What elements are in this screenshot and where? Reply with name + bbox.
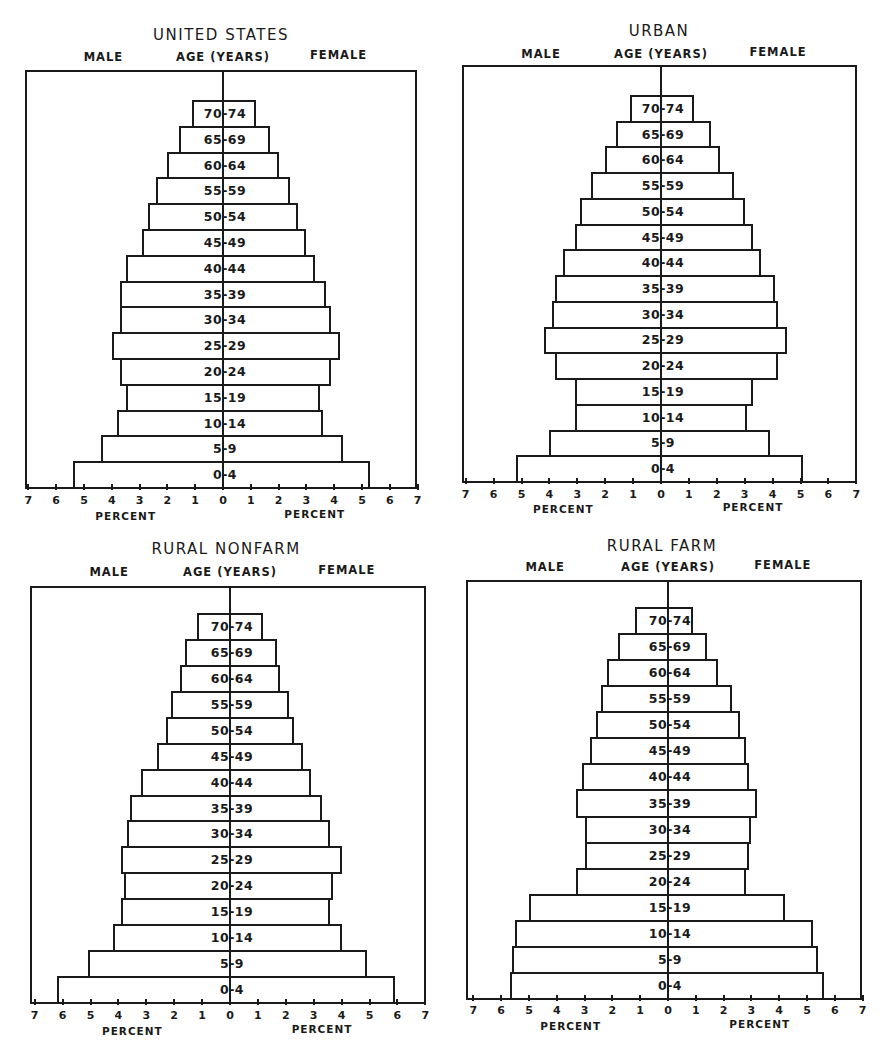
axis-tick [305, 484, 307, 490]
axis-tick [173, 999, 175, 1005]
axis-tick-label: 4 [553, 1004, 561, 1017]
axis-tick [827, 478, 829, 484]
axis-tick-label: 6 [394, 1009, 402, 1022]
axis-tick-label: 3 [136, 494, 144, 507]
age-group-label: 0-4 [651, 461, 675, 476]
axis-tick [639, 995, 641, 1001]
age-group-label: 60-64 [649, 665, 691, 680]
axis-tick-label: 3 [748, 1004, 756, 1017]
axis-tick [528, 995, 530, 1001]
age-group-label: 70-74 [649, 613, 691, 628]
axis-tick-label: 4 [546, 488, 554, 501]
axis-tick-label: 1 [636, 1004, 644, 1017]
age-group-label: 60-64 [211, 671, 253, 686]
chart-title: UNITED STATES [153, 26, 289, 44]
axis-tick [500, 995, 502, 1001]
axis-tick [465, 478, 467, 484]
axis-tick-label: 2 [170, 1009, 178, 1022]
male-label: MALE [521, 47, 561, 61]
age-group-label: 15-19 [649, 900, 691, 915]
male-label: MALE [84, 50, 124, 64]
age-group-label: 45-49 [211, 749, 253, 764]
axis-tick-label: 4 [330, 494, 338, 507]
age-axis-label: AGE (YEARS) [614, 47, 708, 61]
female-label: FEMALE [754, 558, 811, 572]
axis-tick [862, 995, 864, 1001]
axis-tick-label: 1 [254, 1009, 262, 1022]
age-group-label: 50-54 [211, 723, 253, 738]
age-group-label: 5-9 [658, 952, 682, 967]
age-group-label: 65-69 [642, 127, 684, 142]
age-group-label: 35-39 [642, 281, 684, 296]
age-group-label: 10-14 [204, 416, 246, 431]
axis-tick-label: 5 [518, 488, 526, 501]
age-group-label: 25-29 [642, 332, 684, 347]
axis-tick-label: 0 [657, 488, 665, 501]
age-group-label: 35-39 [204, 287, 246, 302]
axis-tick-label: 6 [52, 494, 60, 507]
percent-label-left: PERCENT [102, 1025, 163, 1037]
axis-tick-label: 7 [31, 1009, 39, 1022]
axis-tick [341, 999, 343, 1005]
axis-tick [521, 478, 523, 484]
axis-tick [278, 484, 280, 490]
age-group-label: 10-14 [211, 930, 253, 945]
axis-tick-label: 4 [338, 1009, 346, 1022]
age-group-label: 30-34 [642, 307, 684, 322]
age-group-label: 65-69 [649, 639, 691, 654]
axis-tick [139, 484, 141, 490]
axis-tick [604, 478, 606, 484]
axis-tick [695, 995, 697, 1001]
age-group-label: 50-54 [204, 209, 246, 224]
axis-tick-label: 5 [525, 1004, 533, 1017]
percent-label-right: PERCENT [723, 501, 784, 513]
axis-tick [285, 999, 287, 1005]
axis-tick-label: 5 [797, 488, 805, 501]
axis-tick-label: 5 [87, 1009, 95, 1022]
axis-tick-label: 6 [825, 488, 833, 501]
axis-tick-label: 2 [609, 1004, 617, 1017]
axis-tick [222, 484, 224, 490]
age-group-label: 40-44 [204, 261, 246, 276]
age-group-label: 65-69 [204, 132, 246, 147]
age-group-label: 15-19 [642, 384, 684, 399]
axis-tick-label: 6 [831, 1004, 839, 1017]
axis-tick-label: 2 [282, 1009, 290, 1022]
axis-tick [660, 478, 662, 484]
axis-tick-label: 7 [852, 488, 860, 501]
axis-tick-label: 7 [421, 1009, 429, 1022]
axis-tick-label: 2 [164, 494, 172, 507]
age-axis-label: AGE (YEARS) [621, 560, 715, 574]
axis-tick [576, 478, 578, 484]
axis-tick-label: 7 [470, 1004, 478, 1017]
axis-tick [333, 484, 335, 490]
center-axis [667, 580, 669, 998]
axis-tick-label: 1 [247, 494, 255, 507]
axis-tick-label: 5 [803, 1004, 811, 1017]
axis-tick-label: 2 [713, 488, 721, 501]
age-group-label: 5-9 [213, 441, 237, 456]
age-group-label: 70-74 [204, 106, 246, 121]
age-group-label: 15-19 [211, 904, 253, 919]
percent-label-right: PERCENT [284, 508, 345, 520]
axis-tick [611, 995, 613, 1001]
axis-tick [716, 478, 718, 484]
axis-tick-label: 7 [25, 494, 33, 507]
axis-tick-label: 3 [310, 1009, 318, 1022]
axis-tick [800, 478, 802, 484]
age-axis-label: AGE (YEARS) [176, 50, 270, 64]
axis-tick [778, 995, 780, 1001]
age-group-label: 40-44 [211, 775, 253, 790]
age-group-label: 40-44 [649, 769, 691, 784]
age-axis-label: AGE (YEARS) [183, 565, 277, 579]
axis-tick-label: 3 [573, 488, 581, 501]
age-group-label: 55-59 [211, 697, 253, 712]
axis-tick-label: 4 [769, 488, 777, 501]
axis-tick [83, 484, 85, 490]
axis-tick [27, 484, 29, 490]
axis-tick-label: 4 [108, 494, 116, 507]
axis-tick [34, 999, 36, 1005]
percent-label-left: PERCENT [95, 510, 156, 522]
axis-tick-label: 3 [581, 1004, 589, 1017]
percent-label-left: PERCENT [540, 1020, 601, 1032]
